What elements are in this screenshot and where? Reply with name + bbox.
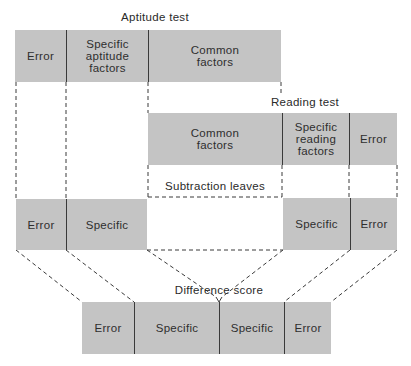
reading-error-segment: Error [349, 113, 397, 165]
difference-score-bar: Error Specific Specific Error [82, 302, 331, 354]
segment-label: Specific aptitude factors [86, 38, 129, 74]
segment-label: Error [360, 133, 387, 145]
aptitude-common-segment: Common factors [148, 30, 281, 82]
dashed-line-error-left-converge [16, 250, 82, 302]
reading-common-segment: Common factors [148, 113, 282, 165]
segment-label: Specific [86, 219, 129, 231]
aptitude-test-bar: Error Specific aptitude factors Common f… [15, 30, 281, 82]
remaining-left-bar: Error Specific [16, 199, 147, 250]
segment-label: Error [360, 218, 387, 230]
aptitude-error-segment: Error [15, 30, 66, 82]
difference-specific-left-segment: Specific [134, 302, 219, 354]
difference-error-right-segment: Error [284, 302, 331, 354]
remaining-left-specific-segment: Specific [66, 199, 147, 250]
difference-specific-right-segment: Specific [219, 302, 284, 354]
segment-label: Common factors [191, 127, 239, 151]
remaining-right-bar: Specific Error [283, 198, 397, 250]
aptitude-test-title: Aptitude test [100, 11, 210, 23]
difference-score-title: Difference score [164, 284, 274, 296]
remaining-left-error-segment: Error [16, 199, 66, 250]
dashed-line-error-right-converge [331, 250, 397, 302]
aptitude-specific-segment: Specific aptitude factors [66, 30, 148, 82]
segment-label: Common factors [191, 44, 239, 68]
segment-label: Specific [156, 322, 199, 334]
remaining-right-error-segment: Error [350, 198, 397, 250]
segment-label: Specific [295, 218, 338, 230]
difference-error-left-segment: Error [82, 302, 134, 354]
reading-test-title: Reading test [250, 96, 360, 108]
segment-label: Error [27, 219, 54, 231]
reading-test-bar: Common factors Specific reading factors … [148, 113, 397, 165]
segment-label: Specific reading factors [295, 121, 338, 157]
segment-label: Error [27, 50, 54, 62]
remaining-right-specific-segment: Specific [283, 198, 350, 250]
reading-specific-segment: Specific reading factors [282, 113, 349, 165]
segment-label: Error [94, 322, 121, 334]
dashed-line-specific-left-converge [66, 250, 134, 302]
segment-label: Specific [231, 322, 274, 334]
segment-label: Error [294, 322, 321, 334]
subtraction-leaves-label: Subtraction leaves [148, 180, 282, 192]
